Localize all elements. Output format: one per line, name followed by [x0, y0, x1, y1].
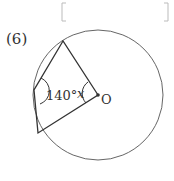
quadrilateral	[34, 41, 98, 133]
unknown-label: x	[77, 86, 85, 101]
center-label: O	[101, 92, 112, 107]
center-point	[96, 93, 100, 97]
angle-label: 140°	[46, 88, 77, 103]
circle-figure: 140° x O	[0, 0, 174, 181]
